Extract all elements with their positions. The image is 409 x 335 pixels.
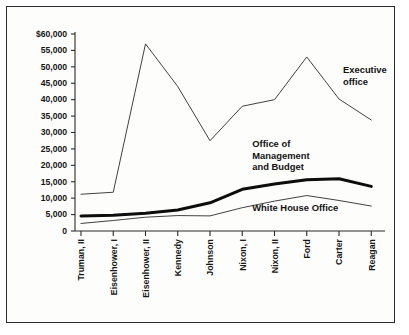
series-annotation: White House Office (252, 202, 338, 213)
y-tick-label: 10,000 (41, 193, 68, 203)
y-tick-label: 30,000 (41, 127, 68, 137)
y-tick-label: 15,000 (41, 177, 68, 187)
series-annotations: ExecutiveofficeOffice ofManagementand Bu… (252, 64, 387, 213)
annotation-line: and Budget (252, 161, 304, 172)
x-tick-label: Eisenhower, I (109, 239, 119, 295)
line-chart: 05,00010,00015,00020,00025,00030,00035,0… (7, 7, 393, 321)
annotation-line: White House Office (252, 202, 338, 213)
x-tick-label: Ford (302, 239, 312, 259)
y-tick-label: 5,000 (45, 209, 67, 219)
x-tick-label: Nixon, II (270, 239, 280, 273)
x-tick-label: Truman, II (76, 239, 86, 281)
y-axis-tick-labels: 05,00010,00015,00020,00025,00030,00035,0… (36, 29, 67, 236)
y-tick-label: 40,000 (41, 94, 68, 104)
x-tick-label: Johnson (205, 239, 215, 276)
data-series-lines (81, 44, 371, 224)
y-tick-label: $60,000 (36, 29, 67, 39)
series-annotation: Office ofManagementand Budget (252, 138, 309, 172)
annotation-line: Office of (252, 138, 291, 149)
x-tick-label: Eisenhower, II (141, 239, 151, 298)
x-axis-tick-labels: Truman, IIEisenhower, IEisenhower, IIKen… (76, 238, 376, 297)
y-tick-label: 0 (62, 226, 67, 236)
y-tick-label: 35,000 (41, 111, 68, 121)
y-tick-label: 45,000 (41, 78, 68, 88)
series-line (81, 44, 371, 194)
chart-figure-frame: 05,00010,00015,00020,00025,00030,00035,0… (6, 6, 395, 323)
y-tick-label: 55,000 (41, 45, 68, 55)
x-tick-label: Carter (334, 238, 344, 264)
annotation-line: Executive (343, 64, 387, 75)
annotation-line: Management (252, 150, 309, 161)
y-axis-tick-marks (71, 34, 75, 231)
x-tick-label: Nixon, I (238, 239, 248, 271)
series-annotation: Executiveoffice (343, 64, 387, 87)
y-tick-label: 20,000 (41, 160, 68, 170)
x-tick-label: Kennedy (173, 239, 183, 276)
x-axis-tick-marks (81, 231, 371, 236)
y-tick-label: 50,000 (41, 62, 68, 72)
x-tick-label: Reagan (367, 239, 377, 271)
annotation-line: office (343, 76, 368, 87)
y-tick-label: 25,000 (41, 144, 68, 154)
